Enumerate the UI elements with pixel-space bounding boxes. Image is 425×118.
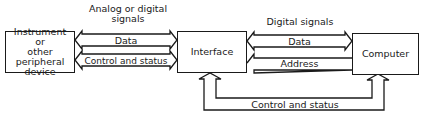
left-control-label: Control and status (80, 56, 172, 66)
computer-label: Computer (362, 49, 409, 59)
left-data-label: Data (82, 36, 170, 46)
interface-box: Interface (177, 31, 247, 73)
right-address-label: Address (254, 59, 345, 69)
computer-box: Computer (352, 33, 419, 75)
instrument-box: Instrument or other peripheral device (5, 31, 75, 73)
left-group-title-line2: signals (88, 14, 168, 24)
bottom-control-label: Control and status (240, 100, 350, 110)
right-group-title: Digital signals (260, 17, 340, 27)
instrument-label-line3: other peripheral (6, 47, 74, 67)
instrument-label-line4: device (24, 67, 55, 77)
interface-label: Interface (191, 47, 234, 57)
right-data-label: Data (254, 37, 345, 47)
